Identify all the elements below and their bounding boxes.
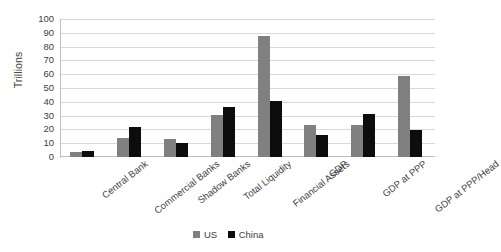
bar-group: [248, 19, 295, 157]
bar-us: [211, 115, 223, 157]
bar-group: [154, 19, 201, 157]
bar-us: [70, 152, 82, 157]
legend-item: US: [193, 229, 217, 240]
y-axis-tick-labels: 1009080706050403020100: [22, 19, 54, 157]
y-axis-tick-label: 0: [28, 152, 54, 162]
bar-china: [129, 127, 141, 157]
bar-group: [60, 19, 107, 157]
bar-group: [341, 19, 388, 157]
bar-china: [410, 130, 422, 157]
legend-label: US: [204, 229, 217, 240]
legend-swatch-icon: [193, 231, 200, 238]
bar-group: [107, 19, 154, 157]
bars-layer: [60, 19, 435, 157]
x-axis-tick-labels: Central BankCommercial BanksShadow Banks…: [60, 158, 457, 228]
bar-china: [223, 107, 235, 157]
legend-swatch-icon: [228, 231, 235, 238]
y-axis-tick-label: 100: [28, 14, 54, 24]
bar-china: [363, 114, 375, 157]
x-axis-tick-label: GDP at PPP: [380, 158, 428, 199]
bar-us: [164, 139, 176, 157]
y-axis-tick-label: 50: [28, 83, 54, 93]
bar-china: [176, 143, 188, 157]
y-axis-tick-label: 40: [28, 97, 54, 107]
y-axis-tick-label: 90: [28, 28, 54, 38]
legend-item: China: [228, 229, 263, 240]
bar-us: [398, 76, 410, 157]
y-axis-tick-label: 80: [28, 42, 54, 52]
bar-group: [388, 19, 435, 157]
bar-us: [117, 138, 129, 157]
bar-china: [82, 151, 94, 157]
chart-legend: USChina: [0, 229, 457, 240]
x-axis-tick-label: Central Bank: [100, 158, 150, 200]
legend-label: China: [239, 229, 264, 240]
bar-us: [304, 125, 316, 157]
bar-us: [258, 36, 270, 157]
bar-china: [270, 101, 282, 157]
bar-us: [351, 125, 363, 157]
y-axis-tick-label: 20: [28, 124, 54, 134]
y-axis-tick-label: 60: [28, 69, 54, 79]
bar-china: [316, 135, 328, 157]
x-axis-tick-label: GDP at PPP/Head: [433, 158, 501, 215]
y-axis-tick-label: 70: [28, 55, 54, 65]
bar-group: [201, 19, 248, 157]
bar-group: [294, 19, 341, 157]
y-axis-tick-label: 10: [28, 138, 54, 148]
y-axis-tick-label: 30: [28, 111, 54, 121]
